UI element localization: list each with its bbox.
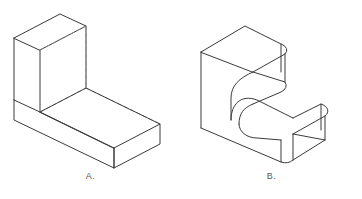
figure-b-upper-top-face [201,26,287,72]
figure-b-upper-front-face-lower [253,72,286,104]
figure-a-caption: A. [0,170,181,182]
figure-a-drawing [0,0,181,170]
figure-b-caption: B. [181,170,362,182]
figure-b-base-top-face [293,104,328,134]
figure-sheet: A. [0,0,362,199]
figure-b-base-front-right-upper-edge [293,134,325,140]
figure-b-panel: B. [181,0,362,199]
figure-b-step-fillet-tangent [239,104,253,124]
figure-a-panel: A. [0,0,181,199]
figure-b-step-front-round-edge [239,124,281,140]
figure-b-drawing [181,0,362,170]
figure-b-base-bottom-outline [201,128,325,163]
